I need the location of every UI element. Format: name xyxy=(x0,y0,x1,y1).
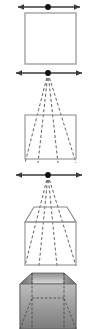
projection-ray xyxy=(48,73,58,163)
projection-rays xyxy=(25,73,76,163)
projection-ray xyxy=(48,175,57,266)
vanishing-point xyxy=(45,4,51,10)
panel-3-depth-plane xyxy=(0,167,96,266)
top-face xyxy=(25,207,76,222)
front-face-square xyxy=(25,115,76,159)
projection-ray xyxy=(25,73,48,163)
arrow-head-right xyxy=(76,70,82,76)
perspective-figure xyxy=(0,0,96,329)
horizon-group xyxy=(18,4,80,10)
shaded-box xyxy=(20,273,76,329)
projection-ray xyxy=(48,73,76,163)
panel-2-projectors xyxy=(0,64,96,163)
arrow-head-left xyxy=(16,172,22,178)
vanishing-point xyxy=(45,172,51,178)
box-front-face xyxy=(20,284,76,329)
panel-1-square-and-horizon xyxy=(0,0,96,68)
projection-rays xyxy=(25,175,76,266)
projection-ray xyxy=(38,73,48,163)
projection-ray xyxy=(25,175,48,266)
vanishing-point xyxy=(45,70,51,76)
arrow-head-left xyxy=(16,70,22,76)
projection-ray xyxy=(39,175,48,266)
arrow-head-right xyxy=(74,4,80,10)
panel-4-shaded-box xyxy=(0,270,96,329)
projection-ray xyxy=(48,175,76,266)
front-face-square xyxy=(25,13,76,64)
front-face-square xyxy=(25,222,76,265)
arrow-head-right xyxy=(76,172,82,178)
arrow-head-left xyxy=(18,4,24,10)
